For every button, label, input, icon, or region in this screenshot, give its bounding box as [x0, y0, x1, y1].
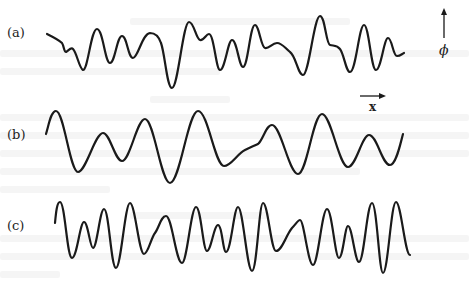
panel-label-a: (a)	[7, 25, 25, 40]
wave-curve-b	[46, 111, 403, 183]
panel-label-b: (b)	[7, 127, 25, 142]
wave-curve-c	[55, 202, 410, 273]
panel-label-c: (c)	[7, 218, 24, 233]
phi-arrowhead-icon	[441, 8, 447, 15]
x-arrowhead-icon	[379, 93, 386, 99]
wave-figure: (a) (b) (c) ϕ x	[0, 0, 469, 291]
wave-curve-a	[47, 16, 404, 88]
wave-curves	[0, 0, 469, 291]
phi-axis-label: ϕ	[439, 42, 449, 58]
x-axis-label: x	[369, 100, 376, 114]
